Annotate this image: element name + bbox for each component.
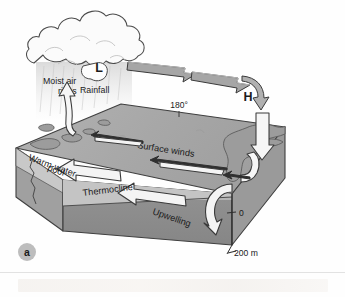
ocean-atmosphere-circulation-diagram: L Moist air rises Rainfall H [0, 0, 345, 297]
figure-panel: L Moist air rises Rainfall H [0, 0, 345, 297]
upper-level-flow-arrow-1 [127, 62, 196, 82]
page-divider [0, 272, 345, 273]
low-pressure-label: L [95, 61, 103, 75]
moist-air-label-line1: Moist air [43, 76, 76, 86]
panel-badge-label: a [24, 246, 30, 258]
longitude-label: 180° [170, 100, 188, 110]
rainfall-label: Rainfall [80, 85, 109, 95]
depth-tick-surface: 0 [239, 208, 244, 218]
depth-tick-200m: 200 m [234, 248, 258, 258]
upper-level-flow-arrow-2 [191, 72, 250, 93]
high-pressure-label: H [243, 90, 252, 104]
caption-bleed-through [18, 279, 328, 292]
